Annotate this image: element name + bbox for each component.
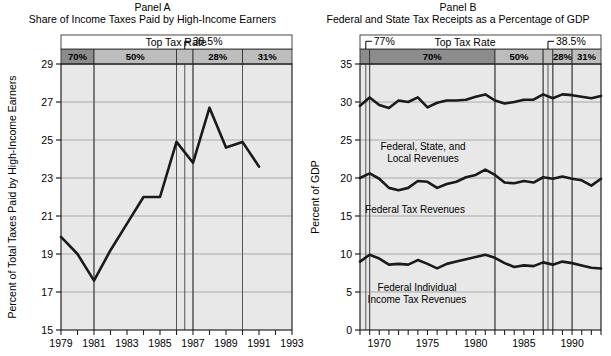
y-tick-label: 25 (41, 134, 53, 146)
panel-a-canvas: 70%50%28%31%Top Tax Rate38.5%15171921232… (0, 0, 305, 356)
callout-label: 77% (374, 35, 395, 47)
tax-rate-band-label: 28% (553, 51, 573, 62)
y-tick-label: 27 (41, 96, 53, 108)
tax-rate-band-label: 70% (68, 51, 88, 62)
series-label: Federal, State, and (380, 141, 465, 152)
panel-a: Panel A Share of Income Taxes Paid by Hi… (0, 0, 305, 356)
x-tick-label: 1983 (115, 337, 139, 349)
y-tick-label: 30 (340, 96, 352, 108)
y-tick-label: 20 (340, 172, 352, 184)
series-label: Federal Tax Revenues (365, 204, 465, 215)
series-label: Federal Individual (378, 282, 457, 293)
x-tick-label: 1985 (148, 337, 172, 349)
y-tick-label: 35 (340, 58, 352, 70)
y-tick-label: 10 (340, 248, 352, 260)
tax-rate-band-label: 50% (126, 51, 146, 62)
y-tick-label: 0 (346, 324, 352, 336)
tax-rate-band-label: 31% (258, 51, 278, 62)
x-tick-label: 1975 (416, 337, 440, 349)
figure-root: Panel A Share of Income Taxes Paid by Hi… (0, 0, 611, 356)
y-tick-label: 21 (41, 210, 53, 222)
y-tick-label: 23 (41, 172, 53, 184)
tax-rate-band-label: 70% (423, 51, 443, 62)
series-label: Local Revenues (387, 153, 459, 164)
x-tick-label: 1990 (560, 337, 584, 349)
y-axis-title: Percent of GDP (309, 160, 321, 234)
x-tick-label: 1979 (49, 337, 73, 349)
y-tick-label: 15 (41, 324, 53, 336)
x-tick-label: 1991 (247, 337, 271, 349)
callout-label: 38.5% (193, 35, 223, 47)
tax-rate-band-label: 50% (510, 51, 530, 62)
tax-rate-band (360, 49, 370, 64)
x-tick-label: 1989 (214, 337, 238, 349)
callout-label: 38.5% (556, 35, 586, 47)
x-tick-label: 1980 (464, 337, 488, 349)
y-tick-label: 29 (41, 58, 53, 70)
x-tick-label: 1985 (512, 337, 536, 349)
panel-b-canvas: 70%50%28%31%Top Tax Rate77%38.5%05101520… (305, 0, 611, 356)
tax-rate-band (543, 49, 553, 64)
tax-rate-header-label: Top Tax Rate (434, 36, 495, 48)
y-tick-label: 19 (41, 248, 53, 260)
y-axis-title: Percent of Total Taxes Paid by High-Inco… (6, 76, 18, 319)
y-tick-label: 15 (340, 210, 352, 222)
panel-b: Panel B Federal and State Tax Receipts a… (305, 0, 611, 356)
tax-rate-band-label: 28% (208, 51, 228, 62)
x-tick-label: 1981 (82, 337, 106, 349)
y-tick-label: 5 (346, 286, 352, 298)
x-tick-label: 1970 (368, 337, 392, 349)
x-tick-label: 1987 (181, 337, 205, 349)
y-tick-label: 17 (41, 286, 53, 298)
y-tick-label: 25 (340, 134, 352, 146)
series-label: Income Tax Revenues (368, 294, 467, 305)
x-tick-label: 1993 (280, 337, 304, 349)
tax-rate-band-label: 31% (577, 51, 597, 62)
tax-rate-band (177, 49, 194, 64)
